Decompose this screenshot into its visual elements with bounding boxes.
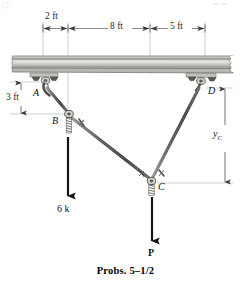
load-label-6k: 6 k [57, 204, 70, 214]
truss-diagram-svg [0, 0, 251, 287]
load-arrows [68, 137, 152, 241]
figure-container: 2 ft 8 ft 5 ft 3 ft A B C D yC 6 k P Pro… [0, 0, 251, 287]
beam [8, 56, 235, 73]
dimension-label-2ft: 2 ft [45, 12, 58, 22]
dimension-label-3ft: 3 ft [6, 93, 19, 103]
yc-subscript: C [217, 134, 222, 142]
dimension-label-8ft: 8 ft [110, 22, 123, 32]
scan-artifacts [2, 2, 227, 8]
dimension-label-5ft: 5 ft [170, 22, 183, 32]
node-label-a: A [33, 88, 39, 98]
figure-caption: Probs. 5–1/2 [0, 265, 251, 276]
load-label-p: P [148, 248, 154, 258]
node-label-d: D [208, 86, 215, 96]
node-label-c: C [158, 182, 165, 192]
dimension-label-yc: yC [213, 129, 222, 142]
node-label-b: B [52, 116, 58, 126]
